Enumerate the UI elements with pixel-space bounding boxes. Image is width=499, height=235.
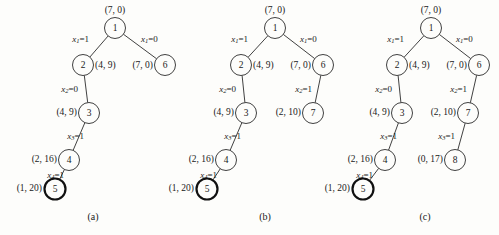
tree-edge xyxy=(458,123,465,150)
edge-label: x3=1 xyxy=(437,131,455,141)
node-number: 8 xyxy=(453,155,458,165)
tree-edge xyxy=(404,36,424,58)
node-value-pair: (4, 9) xyxy=(369,107,390,118)
node-value-pair: (7, 0) xyxy=(446,60,467,71)
edge-label: x2=0 xyxy=(374,84,392,94)
panel-caption: (c) xyxy=(419,211,430,223)
node-value-pair: (4, 9) xyxy=(409,60,430,71)
node-number: 6 xyxy=(477,60,482,70)
edge-label: x1=0 xyxy=(455,34,473,44)
tree-edge xyxy=(470,75,476,103)
node-value-pair: (0, 17) xyxy=(418,154,443,165)
node-number: 2 xyxy=(395,60,400,70)
node-value-pair: (1, 20) xyxy=(325,183,350,194)
edge-label: x2=1 xyxy=(449,84,467,94)
tree-panel-c: x1=1x1=0x2=0x2=1x3=1x3=1x4=11(7, 0)2(4, … xyxy=(0,0,499,235)
node-number: 7 xyxy=(466,108,471,118)
tree-node-5[interactable]: 5(1, 20) xyxy=(325,179,374,200)
tree-node-7[interactable]: 7(2, 10) xyxy=(431,103,479,124)
edge-label: x3=1 xyxy=(379,131,397,141)
tree-node-6[interactable]: 6(7, 0) xyxy=(446,55,489,76)
tree-node-8[interactable]: 8(0, 17) xyxy=(418,150,466,171)
node-number: 3 xyxy=(400,108,405,118)
edge-label: x1=1 xyxy=(386,34,404,44)
node-value-pair: (2, 16) xyxy=(348,154,373,165)
node-value-pair: (7, 0) xyxy=(421,5,442,16)
node-value-pair: (2, 10) xyxy=(431,107,456,118)
node-number: 4 xyxy=(383,155,388,165)
tree-node-4[interactable]: 4(2, 16) xyxy=(348,150,396,171)
tree-node-2[interactable]: 2(4, 9) xyxy=(387,55,430,76)
tree-node-3[interactable]: 3(4, 9) xyxy=(369,103,412,124)
tree-node-1[interactable]: 1(7, 0) xyxy=(421,5,442,38)
node-number: 1 xyxy=(429,23,434,33)
tree-edge xyxy=(398,75,401,102)
branch-and-bound-figure: x1=1x1=0x2=0x3=1x4=11(7, 0)2(4, 9)6(7, 0… xyxy=(0,0,499,235)
node-number: 5 xyxy=(361,184,366,194)
